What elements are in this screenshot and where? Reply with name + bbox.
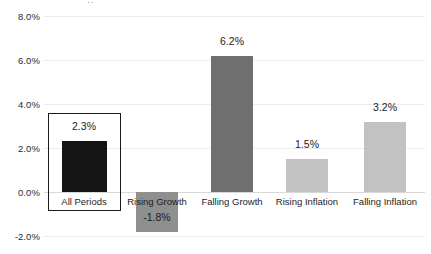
bar-falling-inflation[interactable] [364,122,406,192]
y-axis-tick-0: 0.0% [0,187,40,198]
bar-rising-inflation[interactable] [286,159,328,192]
gridline-8 [44,16,425,17]
gridline-neg2 [44,236,425,237]
bar-chart: y 8.0% 6.0% 4.0% 2.0% 0.0% -2.0% 2.3% Al… [0,0,431,254]
category-label-rising-inflation: Rising Inflation [276,196,338,207]
category-label-rising-growth: Rising Growth [127,196,187,207]
y-axis-tick-2: 2.0% [0,143,40,154]
bar-value-falling-inflation: 3.2% [373,101,397,113]
bar-value-rising-inflation: 1.5% [295,138,319,150]
category-label-falling-inflation: Falling Inflation [353,196,417,207]
y-axis-tick-6: 6.0% [0,55,40,66]
plot-area: 2.3% All Periods Rising Growth -1.8% 6.2… [44,0,425,254]
bar-value-all-periods: 2.3% [72,120,96,132]
category-label-falling-growth: Falling Growth [201,196,262,207]
y-axis-tick-neg2: -2.0% [0,231,40,242]
bar-falling-growth[interactable] [211,56,253,192]
bar-value-rising-growth: -1.8% [143,211,170,223]
bar-value-falling-growth: 6.2% [220,35,244,47]
y-axis-tick-8: 8.0% [0,11,40,22]
y-axis-tick-4: 4.0% [0,99,40,110]
bar-all-periods[interactable] [62,141,107,192]
category-label-all-periods: All Periods [61,196,106,207]
